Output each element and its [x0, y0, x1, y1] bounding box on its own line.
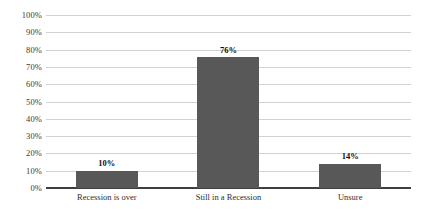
- x-axis: Recession is over Still in a Recession U…: [46, 192, 411, 210]
- y-axis-tick-label: 20%: [6, 149, 42, 158]
- bar-value-label: 10%: [98, 159, 115, 168]
- y-axis-tick-label: 30%: [6, 132, 42, 141]
- bar-value-label: 76%: [220, 46, 237, 55]
- bar-group: 76%: [168, 15, 290, 188]
- bar-group: 10%: [46, 15, 168, 188]
- y-axis-tick-label: 90%: [6, 28, 42, 37]
- y-axis-tick-label: 10%: [6, 167, 42, 176]
- y-axis-tick-label: 60%: [6, 80, 42, 89]
- x-axis-category-label: Still in a Recession: [168, 192, 290, 202]
- bar[interactable]: [319, 164, 381, 188]
- x-axis-category-label: Unsure: [289, 192, 411, 202]
- x-axis-category-label: Recession is over: [46, 192, 168, 202]
- bar[interactable]: [76, 171, 138, 188]
- y-axis-tick-label: 0%: [6, 184, 42, 193]
- y-axis-tick-label: 80%: [6, 46, 42, 55]
- y-axis-tick-label: 40%: [6, 115, 42, 124]
- y-axis-tick-label: 70%: [6, 63, 42, 72]
- plot-area: 10% 76% 14%: [46, 15, 411, 188]
- bar-value-label: 14%: [342, 152, 359, 161]
- y-axis: 100% 90% 80% 70% 60% 50% 40% 30% 20% 10%…: [0, 15, 42, 188]
- bar-group: 14%: [289, 15, 411, 188]
- bar-chart: 100% 90% 80% 70% 60% 50% 40% 30% 20% 10%…: [0, 0, 425, 215]
- bar[interactable]: [197, 57, 259, 188]
- y-axis-tick-label: 50%: [6, 98, 42, 107]
- y-axis-tick-label: 100%: [6, 11, 42, 20]
